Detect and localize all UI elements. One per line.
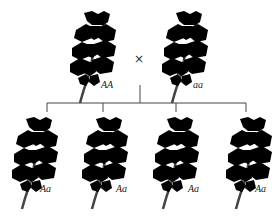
cross-symbol: × xyxy=(134,52,144,66)
parent-genotype-label-recessive: aa xyxy=(193,79,203,90)
parent-genotype-label-dominant: AA xyxy=(101,79,113,90)
offspring-plant-1 xyxy=(12,117,58,209)
offspring-genotype-label-3: Aa xyxy=(188,183,199,194)
offspring-genotype-label-1: Aa xyxy=(40,183,51,194)
offspring-plant-3 xyxy=(153,117,199,209)
offspring-genotype-label-4: Aa xyxy=(255,183,266,194)
offspring-plant-2 xyxy=(82,117,128,209)
offspring-genotype-label-2: Aa xyxy=(116,183,127,194)
offspring-plant-4 xyxy=(226,117,272,209)
